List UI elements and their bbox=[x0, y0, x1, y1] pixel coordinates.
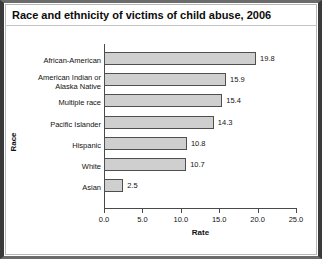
bar-value-label: 10.7 bbox=[190, 158, 205, 171]
x-axis-tick bbox=[296, 209, 297, 213]
x-axis-tick-label: 0.0 bbox=[89, 215, 119, 224]
x-axis-tick-label: 5.0 bbox=[127, 215, 157, 224]
x-axis-tick bbox=[258, 209, 259, 213]
y-axis-title: Race bbox=[9, 122, 18, 162]
y-axis-tick-label: Hispanic bbox=[22, 141, 101, 150]
bar bbox=[104, 137, 187, 150]
bar-value-label: 15.9 bbox=[230, 73, 245, 86]
plot-wrapper: Race African-AmericanAmerican Indian or … bbox=[0, 26, 322, 259]
bar bbox=[104, 116, 214, 129]
x-axis-line bbox=[104, 208, 297, 209]
x-axis-tick bbox=[104, 209, 105, 213]
y-axis-tick-label: African-American bbox=[22, 56, 101, 65]
x-axis-tick-label: 20.0 bbox=[243, 215, 273, 224]
y-axis-tick-label: Pacific Islander bbox=[22, 120, 101, 129]
bar bbox=[104, 179, 123, 192]
chart-title-bar: Race and ethnicity of victims of child a… bbox=[5, 4, 317, 26]
x-axis-tick bbox=[219, 209, 220, 213]
x-axis-tick-label: 25.0 bbox=[281, 215, 311, 224]
y-axis-tick-label: White bbox=[22, 162, 101, 171]
y-axis-tick-label: Multiple race bbox=[22, 98, 101, 107]
y-axis-tick-labels: African-AmericanAmerican Indian or Alask… bbox=[22, 48, 101, 208]
bar-value-label: 15.4 bbox=[226, 94, 241, 107]
bar-value-label: 14.3 bbox=[218, 116, 233, 129]
x-axis-tick-label: 15.0 bbox=[204, 215, 234, 224]
bar-value-label: 10.8 bbox=[191, 137, 206, 150]
bar-value-label: 2.5 bbox=[127, 179, 137, 192]
x-axis-tick-label: 10.0 bbox=[166, 215, 196, 224]
x-axis-tick bbox=[181, 209, 182, 213]
plot-area: 19.815.915.414.310.810.72.5 0.05.010.015… bbox=[104, 46, 296, 208]
x-axis-title: Rate bbox=[104, 228, 297, 237]
bar bbox=[104, 94, 222, 107]
chart-screenshot: Race and ethnicity of victims of child a… bbox=[0, 0, 322, 259]
page-title: Race and ethnicity of victims of child a… bbox=[5, 9, 271, 21]
bar bbox=[104, 52, 256, 65]
bar bbox=[104, 73, 226, 86]
bar-value-label: 19.8 bbox=[260, 52, 275, 65]
y-axis-tick-label: American Indian or Alaska Native bbox=[22, 73, 101, 91]
bar bbox=[104, 158, 186, 171]
y-axis-tick-label: Asian bbox=[22, 183, 101, 192]
x-axis-tick bbox=[142, 209, 143, 213]
